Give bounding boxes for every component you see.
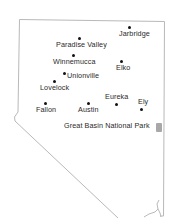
- city-label: Unionville: [67, 72, 99, 79]
- city-label: Austin: [78, 106, 99, 113]
- city-dot-icon: [63, 72, 66, 75]
- city-dot-icon: [140, 108, 143, 111]
- city-dot-icon: [115, 103, 118, 106]
- city-label: Paradise Valley: [56, 41, 107, 48]
- nevada-map: JarbridgeParadise ValleyWinnemuccaElkoUn…: [0, 0, 178, 220]
- city-label: Eureka: [105, 93, 128, 100]
- city-label: Fallon: [36, 106, 56, 113]
- city-label: Ely: [138, 98, 148, 105]
- city-label: Lovelock: [40, 84, 69, 91]
- city-label: Elko: [116, 64, 130, 71]
- park-label: Great Basin National Park: [64, 122, 150, 129]
- city-label: Winnemucca: [53, 58, 96, 65]
- park-icon: [156, 123, 162, 132]
- city-label: Jarbridge: [119, 30, 150, 37]
